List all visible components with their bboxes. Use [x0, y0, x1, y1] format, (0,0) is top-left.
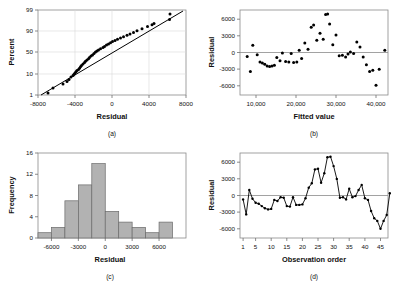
panel-b-xtick-10000: 10,000 — [247, 100, 266, 107]
panel-c-ytick-12: 12 — [26, 170, 33, 177]
panel-b-points — [246, 13, 387, 87]
panel-b-svg: 6000 3000 0 -3000 -6000 10,000 20,000 30… — [200, 0, 400, 143]
panel-d-ytick-6000: 6000 — [221, 158, 235, 165]
panel-d-ytick-0: 0 — [232, 192, 236, 199]
panel-c-y-ticks: 16 12 8 4 0 — [26, 149, 38, 241]
panel-normal-probability-plot: 99 90 50 10 1 -8000 -4000 0 4000 8000 Re… — [0, 0, 200, 143]
panel-c-xtick-neg6000: -6000 — [44, 243, 60, 250]
panel-a-xtick-neg4000: -4000 — [67, 100, 83, 107]
histogram-bar — [92, 164, 105, 238]
panel-c-svg: 16 12 8 4 0 -6000 -3000 0 3000 6000 Resi… — [0, 143, 200, 286]
panel-d-y-ticks: 6000 3000 0 -3000 -6000 — [219, 158, 240, 232]
panel-d-series-line — [243, 157, 390, 229]
panel-a-ytick-99: 99 — [26, 6, 33, 13]
histogram-bar — [159, 222, 172, 238]
panel-b-x-ticks: 10,000 20,000 30,000 40,000 — [247, 95, 386, 107]
panel-b-ytick-neg3000: -3000 — [219, 65, 235, 72]
panel-c-ytick-8: 8 — [30, 192, 34, 199]
histogram-bar — [65, 201, 78, 238]
panel-d-ytick-neg3000: -3000 — [219, 208, 235, 215]
panel-a-points — [47, 13, 172, 95]
panel-c-xtick-6000: 6000 — [152, 243, 166, 250]
panel-c-ytick-4: 4 — [30, 213, 34, 220]
panel-d-caption: (d) — [310, 273, 318, 281]
panel-a-xtick-8000: 8000 — [179, 100, 193, 107]
panel-a-ytick-50: 50 — [26, 48, 33, 55]
histogram-bar — [78, 185, 91, 238]
histogram-bar — [146, 233, 159, 238]
panel-d-xtick-20: 20 — [299, 243, 306, 250]
panel-d-xtick-25: 25 — [315, 243, 322, 250]
panel-c-xtick-neg3000: -3000 — [70, 243, 86, 250]
panel-d-xtick-35: 35 — [346, 243, 353, 250]
panel-d-points — [242, 156, 391, 231]
panel-d-ytick-3000: 3000 — [221, 175, 235, 182]
panel-b-ytick-6000: 6000 — [221, 15, 235, 22]
panel-b-xtick-40000: 40,000 — [367, 100, 386, 107]
panel-c-y-axis-title: Frequency — [7, 175, 16, 213]
panel-a-ytick-10: 10 — [26, 70, 33, 77]
panel-a-x-ticks: -8000 -4000 0 4000 8000 — [30, 95, 193, 107]
panel-b-y-axis-title: Residual — [207, 37, 216, 68]
panel-d-x-ticks: 1 5 10 15 20 25 30 35 40 45 — [241, 238, 384, 250]
panel-c-ytick-0: 0 — [30, 234, 34, 241]
panel-a-y-ticks: 99 90 50 10 1 — [26, 6, 38, 98]
panel-b-x-axis-title: Fitted value — [293, 112, 334, 121]
panel-b-xtick-20000: 20,000 — [287, 100, 306, 107]
panel-a-svg: 99 90 50 10 1 -8000 -4000 0 4000 8000 Re… — [0, 0, 200, 143]
panel-c-bars — [38, 164, 173, 238]
histogram-bar — [51, 227, 64, 238]
panel-d-xtick-10: 10 — [268, 243, 275, 250]
panel-residual-histogram: 16 12 8 4 0 -6000 -3000 0 3000 6000 Resi… — [0, 143, 200, 286]
panel-a-xtick-4000: 4000 — [142, 100, 156, 107]
panel-b-ytick-neg6000: -6000 — [219, 82, 235, 89]
panel-d-y-axis-title: Residual — [207, 180, 216, 211]
panel-a-ytick-1: 1 — [30, 91, 34, 98]
panel-d-svg: 6000 3000 0 -3000 -6000 1 5 10 1 — [200, 143, 400, 286]
panel-a-caption: (a) — [108, 130, 116, 138]
histogram-bar — [119, 222, 132, 238]
panel-c-ytick-16: 16 — [26, 149, 33, 156]
panel-d-x-axis-title: Observation order — [282, 255, 346, 264]
histogram-bar — [132, 227, 145, 238]
panel-b-ytick-3000: 3000 — [221, 32, 235, 39]
histogram-bar — [105, 211, 118, 238]
panel-c-xtick-0: 0 — [104, 243, 108, 250]
residual-plots-figure: 99 90 50 10 1 -8000 -4000 0 4000 8000 Re… — [0, 0, 400, 286]
panel-a-xtick-0: 0 — [110, 100, 114, 107]
panel-c-xtick-3000: 3000 — [125, 243, 139, 250]
panel-b-y-ticks: 6000 3000 0 -3000 -6000 — [219, 15, 240, 89]
panel-a-xtick-neg8000: -8000 — [30, 100, 46, 107]
panel-d-xtick-30: 30 — [330, 243, 337, 250]
panel-d-xtick-15: 15 — [283, 243, 290, 250]
panel-d-xtick-5: 5 — [254, 243, 258, 250]
panel-a-x-axis-title: Residual — [97, 112, 128, 121]
panel-residual-vs-observation-order: 6000 3000 0 -3000 -6000 1 5 10 1 — [200, 143, 400, 286]
panel-a-ytick-90: 90 — [26, 27, 33, 34]
panel-d-xtick-1: 1 — [241, 243, 245, 250]
panel-b-ytick-0: 0 — [232, 49, 236, 56]
panel-c-caption: (c) — [106, 273, 114, 281]
histogram-bar — [38, 233, 51, 238]
panel-residual-vs-fitted: 6000 3000 0 -3000 -6000 10,000 20,000 30… — [200, 0, 400, 143]
panel-c-x-ticks: -6000 -3000 0 3000 6000 — [44, 238, 167, 250]
panel-d-xtick-40: 40 — [361, 243, 368, 250]
panel-b-caption: (b) — [310, 130, 318, 138]
panel-d-xtick-45: 45 — [377, 243, 384, 250]
panel-b-xtick-30000: 30,000 — [327, 100, 346, 107]
panel-c-x-axis-title: Residual — [95, 255, 126, 264]
panel-d-ytick-neg6000: -6000 — [219, 225, 235, 232]
panel-a-y-axis-title: Percent — [7, 38, 16, 66]
